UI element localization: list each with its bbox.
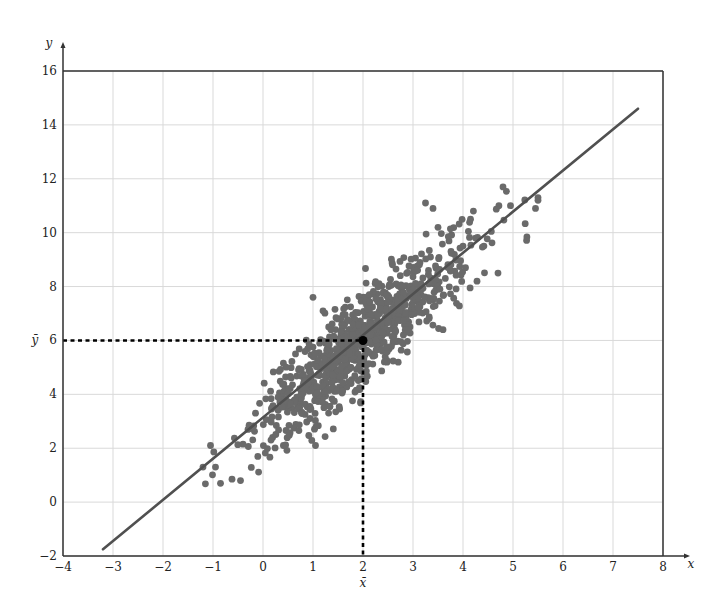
data-point [322, 433, 329, 440]
data-point [248, 464, 255, 471]
data-point [400, 289, 407, 296]
data-point [280, 381, 287, 388]
data-point [362, 265, 369, 272]
data-point [381, 359, 388, 366]
y-tick-label: 6 [49, 333, 57, 347]
x-tick-label: 6 [559, 560, 567, 574]
data-point [399, 283, 406, 290]
data-point [252, 410, 259, 417]
data-point [329, 395, 336, 402]
mean-point-marker [359, 336, 368, 345]
data-point [427, 295, 434, 302]
data-point [355, 322, 362, 329]
data-point [363, 280, 370, 287]
data-point [209, 471, 216, 478]
x-tick-label: 2 [359, 560, 367, 574]
data-point [442, 275, 449, 282]
y-mean-label: ȳ [31, 333, 39, 347]
data-point [267, 454, 274, 461]
regression-line [103, 109, 638, 550]
data-point [311, 350, 318, 357]
x-tick-label: −1 [204, 560, 222, 574]
data-point [332, 306, 339, 313]
data-point [304, 363, 311, 370]
data-point [439, 241, 446, 248]
x-tick-label: −3 [104, 560, 122, 574]
data-point [337, 373, 344, 380]
x-axis-label: x [688, 557, 695, 571]
data-point [262, 395, 269, 402]
data-point [275, 394, 282, 401]
data-point [448, 250, 455, 257]
data-point [447, 268, 454, 275]
data-point [426, 315, 433, 322]
data-point [350, 331, 357, 338]
data-point [366, 299, 373, 306]
data-point [338, 328, 345, 335]
data-point [329, 363, 336, 370]
data-point [321, 404, 328, 411]
data-point [338, 363, 345, 370]
data-point [415, 295, 422, 302]
data-point [264, 445, 271, 452]
data-point [202, 480, 209, 487]
data-point [291, 409, 298, 416]
data-point [296, 346, 303, 353]
data-point [296, 427, 303, 434]
data-point [447, 290, 454, 297]
data-point [333, 388, 340, 395]
x-tick-label: 7 [609, 560, 617, 574]
data-point [217, 480, 224, 487]
data-point [277, 366, 284, 373]
data-point [524, 234, 531, 241]
data-point [377, 305, 384, 312]
data-point [261, 380, 268, 387]
data-point [342, 356, 349, 363]
data-point [282, 442, 289, 449]
data-point [325, 410, 332, 417]
data-point [366, 360, 373, 367]
data-point [212, 464, 219, 471]
data-point [410, 273, 417, 280]
data-point [426, 247, 433, 254]
data-point [404, 349, 411, 356]
data-point [207, 442, 214, 449]
y-tick-label: 2 [49, 441, 57, 455]
data-point [329, 321, 336, 328]
data-point [398, 338, 405, 345]
x-tick-label: 4 [459, 560, 467, 574]
data-point [383, 292, 390, 299]
data-point [378, 346, 385, 353]
data-point [389, 261, 396, 268]
data-point [330, 372, 337, 379]
data-point [495, 270, 502, 277]
data-point [310, 294, 317, 301]
data-point [389, 333, 396, 340]
data-point [229, 476, 236, 483]
data-point [507, 202, 514, 209]
y-tick-label: 8 [49, 280, 57, 294]
data-point [260, 421, 267, 428]
data-point [342, 304, 349, 311]
x-tick-label: 3 [409, 560, 417, 574]
data-point [400, 317, 407, 324]
data-point [412, 280, 419, 287]
data-point [456, 303, 463, 310]
data-point [481, 269, 488, 276]
data-point [254, 453, 261, 460]
fitted-line [103, 109, 638, 550]
data-point [339, 379, 346, 386]
data-point [272, 431, 279, 438]
data-point [522, 220, 529, 227]
data-point [272, 445, 279, 452]
data-point [314, 389, 321, 396]
data-point [430, 205, 437, 212]
data-point [435, 255, 442, 262]
data-point [458, 272, 465, 279]
y-tick-label: 10 [42, 226, 57, 240]
data-point [430, 322, 437, 329]
data-point [387, 276, 394, 283]
data-point [388, 282, 395, 289]
data-point [459, 216, 466, 223]
data-point [397, 258, 404, 265]
